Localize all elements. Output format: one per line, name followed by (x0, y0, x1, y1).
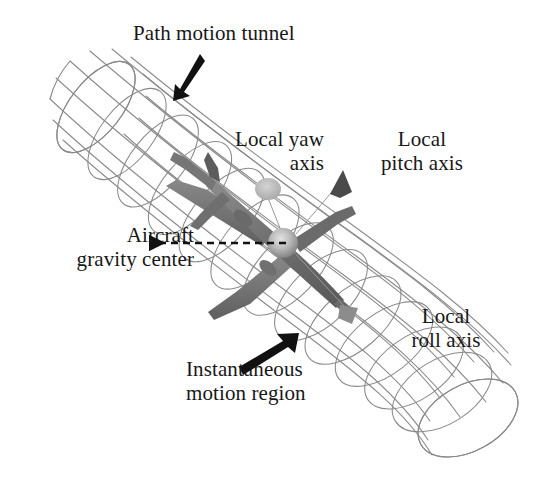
roll-axis-cone-marker (338, 305, 358, 324)
label-local-roll-axis: Local roll axis (376, 305, 516, 352)
label-path-motion-tunnel: Path motion tunnel (133, 22, 295, 46)
tunnel-far-end-opening (405, 363, 531, 473)
label-instantaneous-motion-region: Instantaneous motion region (186, 358, 306, 405)
path-motion-tunnel-arrow (173, 54, 205, 101)
label-local-pitch-axis: Local pitch axis (344, 128, 500, 175)
aircraft-model (166, 152, 356, 320)
label-aircraft-gravity-center: Aircraft gravity center (4, 224, 194, 271)
yaw-axis-disc-marker (255, 178, 281, 200)
figure-canvas: Path motion tunnel Local yaw axis Local … (0, 0, 548, 494)
label-local-yaw-axis: Local yaw axis (146, 128, 324, 175)
